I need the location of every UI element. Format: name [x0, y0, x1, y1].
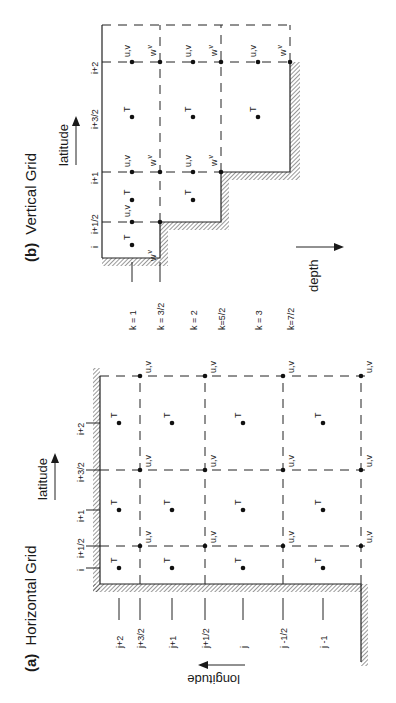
- tracer-point-label: T: [233, 557, 243, 563]
- velocity-point-label: u,v: [248, 44, 258, 57]
- panel-b-depth-label: depth: [306, 259, 321, 292]
- panel-b-column-label: i+1/2: [90, 214, 100, 234]
- velocity-point-label: u,v: [286, 454, 296, 467]
- vertical-velocity-superscript: v: [207, 45, 214, 49]
- tracer-point-label: T: [162, 557, 172, 563]
- velocity-point: [359, 468, 364, 473]
- panel-b-latitude-label: latitude: [56, 124, 71, 166]
- panel-a-row-label: j+3/2: [136, 628, 146, 649]
- velocity-point-label: u,v: [143, 530, 153, 543]
- tracer-point: [130, 115, 135, 120]
- coast-hatch-corner: [361, 584, 368, 666]
- panel-a-title: (a) Horizontal Grid: [22, 545, 39, 672]
- panel-b-title: (b) Vertical Grid: [22, 153, 39, 262]
- panel-a-column-label: i+3/2: [76, 462, 86, 482]
- velocity-point-label: u,v: [364, 360, 374, 373]
- panel-b-column-labels: ii+1/2i+1i+3/2i+2: [90, 62, 100, 248]
- arrowhead-right-icon: [334, 243, 344, 251]
- panel-b-label: (b): [22, 243, 39, 262]
- panel-b-level-label: k = 3/2: [156, 303, 166, 330]
- tracer-point: [191, 115, 196, 120]
- tracer-point: [117, 421, 122, 426]
- vertical-velocity-label: wv: [207, 45, 219, 58]
- panel-a-horizontal-grid: (a) Horizontal Grid latitude longitude i…: [22, 360, 374, 687]
- panel-b-level-label: k=5/2: [217, 308, 227, 330]
- vertical-velocity-superscript: v: [276, 45, 283, 49]
- tracer-point-label: T: [162, 499, 172, 505]
- tracer-point-label: T: [109, 412, 119, 418]
- tracer-point-label: T: [109, 499, 119, 505]
- panel-b-depth-arrow: depth: [296, 243, 344, 292]
- vertical-velocity-point: [158, 60, 163, 65]
- panel-a-row-label: j+1: [168, 636, 178, 649]
- ocean-grid-figure: (b) Vertical Grid latitude ii+1/2i+1i+3/…: [0, 0, 396, 703]
- velocity-point-label: u,v: [183, 44, 193, 57]
- panel-a-label: (a): [22, 654, 39, 672]
- velocity-point: [191, 60, 196, 65]
- velocity-point: [359, 544, 364, 549]
- panel-a-latitude-arrow: latitude: [35, 453, 59, 500]
- velocity-point: [130, 220, 135, 225]
- vertical-velocity-label: wv: [276, 45, 288, 58]
- velocity-point-label: u,v: [122, 44, 132, 57]
- tracer-point-label: T: [313, 557, 323, 563]
- tracer-point: [191, 198, 196, 203]
- tracer-point-label: T: [109, 557, 119, 563]
- tracer-point-label: T: [313, 412, 323, 418]
- panel-b-column-label: i+2: [90, 62, 100, 74]
- panel-b-level-label: k = 1: [128, 310, 138, 330]
- tracer-point: [321, 566, 326, 571]
- velocity-point: [256, 60, 261, 65]
- velocity-point-label: u,v: [122, 154, 132, 167]
- velocity-point-label: u,v: [364, 454, 374, 467]
- velocity-point-label: u,v: [286, 360, 296, 373]
- panel-a-row-label: j+1/2: [201, 628, 211, 649]
- panel-b-level-label: k=7/2: [286, 308, 296, 330]
- velocity-point-label: u,v: [364, 530, 374, 543]
- panel-b-title-text: Vertical Grid: [22, 153, 39, 235]
- panel-b-column-label: i+3/2: [90, 109, 100, 129]
- vertical-velocity-point: [158, 220, 163, 225]
- velocity-point-label: u,v: [122, 204, 132, 217]
- panel-a-row-label: j+2: [115, 636, 125, 649]
- velocity-point: [203, 468, 208, 473]
- panel-a-title-text: Horizontal Grid: [22, 545, 39, 645]
- velocity-point-label: u,v: [143, 360, 153, 373]
- panel-a-longitude-label: longitude: [187, 672, 240, 687]
- panel-a-row-label: j: [239, 646, 249, 649]
- panel-b-vertical-grid: (b) Vertical Grid latitude ii+1/2i+1i+3/…: [22, 25, 344, 330]
- velocity-point: [203, 544, 208, 549]
- panel-b-level-label: k = 2: [189, 310, 199, 330]
- tracer-point: [321, 421, 326, 426]
- velocity-point: [138, 468, 143, 473]
- tracer-point: [241, 421, 246, 426]
- velocity-point: [130, 60, 135, 65]
- panel-a-coastline: [93, 368, 368, 666]
- vertical-velocity-point: [158, 170, 163, 175]
- tracer-point: [117, 508, 122, 513]
- vertical-velocity-superscript: v: [146, 155, 153, 159]
- panel-a-column-label: i+1/2: [76, 538, 86, 558]
- panel-a-row-label: j -1: [319, 635, 329, 649]
- arrowhead-up-icon: [51, 453, 59, 463]
- coast-hatch-left: [93, 584, 362, 592]
- tracer-point-label: T: [233, 412, 243, 418]
- tracer-point-label: T: [233, 499, 243, 505]
- vertical-velocity-superscript: v: [146, 45, 153, 49]
- vertical-velocity-label: wv: [146, 250, 158, 263]
- velocity-point-label: u,v: [208, 360, 218, 373]
- tracer-point: [170, 566, 175, 571]
- panel-b-column-label: i: [90, 246, 100, 248]
- panel-a-grid-points: TTTTTTTTTTTTu,vu,vu,vu,vu,vu,vu,vu,vu,vu…: [109, 360, 374, 570]
- vertical-velocity-point: [288, 60, 293, 65]
- panel-b-column-label: i+1: [90, 172, 100, 184]
- velocity-point: [191, 170, 196, 175]
- vertical-velocity-label: wv: [146, 155, 158, 168]
- tracer-point: [241, 566, 246, 571]
- coast-hatch-top: [93, 368, 100, 592]
- tracer-point: [130, 243, 135, 248]
- panel-a-row-labels: j+2j+3/2j+1j+1/2jj -1/2j -1: [115, 598, 329, 649]
- tracer-point: [321, 508, 326, 513]
- velocity-point: [130, 170, 135, 175]
- panel-b-level-labels: k = 1k = 3/2k = 2k=5/2k = 3k=7/2: [128, 262, 296, 330]
